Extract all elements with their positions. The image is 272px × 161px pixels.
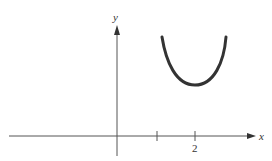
function-curve <box>162 37 226 85</box>
x-tick-label-2: 2 <box>192 142 198 154</box>
y-axis-arrow-icon <box>114 25 120 35</box>
y-axis-label: y <box>112 11 118 23</box>
x-axis-label: x <box>258 130 264 142</box>
x-axis-arrow-icon <box>247 133 256 139</box>
graph: y x 2 <box>0 0 272 161</box>
